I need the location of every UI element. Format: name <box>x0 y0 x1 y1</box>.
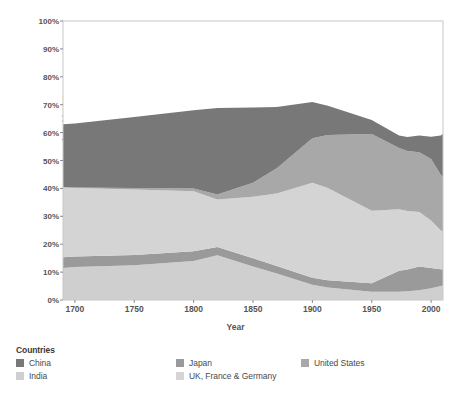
x-tick-label: 1700 <box>65 304 84 314</box>
x-tick-label: 1950 <box>362 304 381 314</box>
legend-swatch-icon <box>301 359 309 367</box>
legend-item-label: UK, France & Germany <box>189 371 276 381</box>
legend-item-label: China <box>29 358 51 368</box>
x-tick-label: 1900 <box>303 304 322 314</box>
x-tick-label: 1800 <box>184 304 203 314</box>
legend-item[interactable]: China <box>16 358 51 368</box>
legend-swatch-icon <box>16 359 24 367</box>
legend-item[interactable]: United States <box>301 358 364 368</box>
legend: Countries ChinaIndiaJapanUK, France & Ge… <box>16 345 456 384</box>
legend-item-label: India <box>29 371 47 381</box>
legend-item-label: Japan <box>189 358 212 368</box>
x-axis-title: Year <box>0 322 471 332</box>
legend-items: ChinaIndiaJapanUK, France & GermanyUnite… <box>16 358 456 384</box>
legend-swatch-icon <box>176 372 184 380</box>
legend-item[interactable]: UK, France & Germany <box>176 371 276 381</box>
legend-item-label: United States <box>314 358 364 368</box>
x-tick-label: 1750 <box>125 304 144 314</box>
legend-item[interactable]: Japan <box>176 358 212 368</box>
area-chart: % of world GDP 0%10%20%30%40%50%60%70%80… <box>0 0 471 405</box>
legend-title: Countries <box>16 345 456 355</box>
legend-swatch-icon <box>176 359 184 367</box>
x-tick-label: 1850 <box>244 304 263 314</box>
x-tick-label: 2000 <box>422 304 441 314</box>
legend-swatch-icon <box>16 372 24 380</box>
legend-item[interactable]: India <box>16 371 47 381</box>
